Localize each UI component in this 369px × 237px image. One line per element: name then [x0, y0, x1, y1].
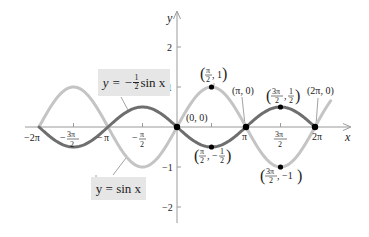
svg-text:): ) [226, 147, 231, 165]
svg-text:1: 1 [289, 87, 293, 96]
legend-neg-half-sin: y = − 1 2 sin x [98, 69, 170, 96]
svg-text:): ) [222, 65, 227, 83]
x-tick-2pi: 2π [312, 131, 322, 142]
svg-text:): ) [297, 167, 302, 185]
svg-text:2: 2 [206, 75, 210, 84]
svg-text:2: 2 [70, 140, 74, 149]
svg-text:, −1: , −1 [277, 170, 293, 181]
svg-text:3π: 3π [275, 130, 283, 139]
svg-text:(: ( [194, 147, 199, 165]
svg-text:2: 2 [278, 140, 282, 149]
svg-text:1: 1 [220, 147, 224, 156]
svg-text:−: − [97, 132, 103, 143]
sine-graph: y x 2 1 −1 −2 −2π − 3π 2 − π − π 2 π 3π … [0, 0, 369, 237]
x-tick-pi: π [242, 131, 247, 142]
svg-text:π: π [206, 66, 210, 75]
y-tick-2: 2 [167, 42, 172, 53]
y-axis-label: y [166, 11, 173, 25]
point-pi2-neg-half [209, 144, 214, 149]
svg-text:2: 2 [200, 156, 204, 165]
x-tick-neg-pi: − π [97, 132, 109, 143]
svg-text:2: 2 [269, 176, 273, 185]
svg-text:−: − [60, 132, 66, 143]
svg-text:,: , [284, 90, 287, 101]
svg-text:): ) [295, 87, 300, 105]
svg-text:3π: 3π [272, 87, 280, 96]
label-3pi2-half: ( 3π 2 , 1 2 ) [266, 87, 300, 105]
svg-text:2: 2 [275, 96, 279, 105]
x-tick-3pi2: 3π 2 [274, 130, 287, 149]
svg-text:2: 2 [289, 96, 293, 105]
svg-text:2: 2 [220, 156, 224, 165]
x-tick-neg-2pi: −2π [24, 132, 40, 143]
y-tick-neg1: −1 [162, 162, 173, 173]
y-tick-neg2: −2 [162, 202, 173, 213]
svg-text:π: π [140, 130, 144, 139]
svg-text:(: ( [266, 87, 271, 105]
svg-text:π: π [200, 147, 204, 156]
label-2pi-0: (2π, 0) [307, 85, 334, 97]
x-axis-label: x [344, 130, 351, 144]
label-pi-0: (π, 0) [232, 85, 254, 97]
point-origin [174, 124, 180, 130]
svg-text:(: ( [260, 167, 265, 185]
svg-text:3π: 3π [67, 130, 75, 139]
svg-text:2: 2 [140, 140, 144, 149]
point-3pi2-half [278, 104, 283, 109]
legend-sin: y = sin x [91, 177, 146, 200]
svg-text:, 1: , 1 [212, 69, 222, 80]
svg-text:, −: , − [207, 150, 218, 161]
label-3pi2-neg1: ( 3π 2 , −1 ) [260, 167, 302, 185]
point-3pi2-neg1 [278, 164, 283, 169]
label-pi2-neg-half: ( π 2 , − 1 2 ) [194, 147, 231, 165]
point-pi [243, 124, 249, 130]
x-tick-neg-pi2: − π 2 [132, 130, 146, 149]
point-2pi [312, 124, 318, 130]
svg-text:3π: 3π [266, 167, 274, 176]
svg-text:π: π [104, 132, 109, 143]
label-pi2-1: ( π 2 , 1 ) [200, 65, 227, 84]
svg-text:(: ( [200, 65, 205, 83]
point-pi2-1 [209, 84, 214, 89]
svg-text:−: − [132, 132, 138, 143]
label-origin: (0, 0) [186, 112, 208, 124]
